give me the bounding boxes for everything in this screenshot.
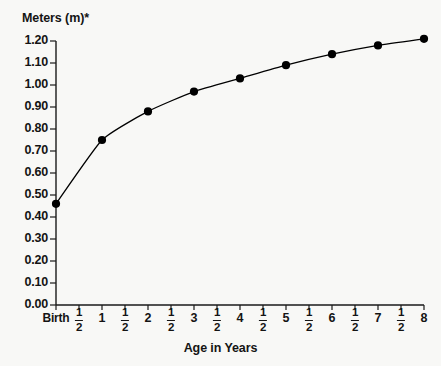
- fraction-numerator: 1: [305, 307, 313, 319]
- fraction-numerator: 1: [121, 307, 129, 319]
- fraction-numerator: 1: [75, 307, 83, 319]
- fraction-one-half: 12: [121, 307, 129, 333]
- fraction-denominator: 2: [75, 322, 83, 334]
- fraction-numerator: 1: [213, 307, 221, 319]
- x-axis-tick-label: 3: [191, 311, 198, 325]
- y-axis-tick-label: 1.10: [2, 55, 48, 69]
- y-axis-tick-label: 1.20: [2, 33, 48, 47]
- x-axis-tick-label: 12: [259, 308, 267, 335]
- fraction-numerator: 1: [167, 307, 175, 319]
- data-point: [190, 88, 198, 96]
- data-point: [420, 35, 428, 43]
- y-axis-tick-label: 0.00: [2, 297, 48, 311]
- data-point: [144, 107, 152, 115]
- y-axis-tick-label: 0.60: [2, 165, 48, 179]
- fraction-one-half: 12: [397, 307, 405, 333]
- data-point: [236, 74, 244, 82]
- x-axis-tick-label: 12: [397, 308, 405, 335]
- fraction-numerator: 1: [397, 307, 405, 319]
- y-axis-tick-label: 0.50: [2, 187, 48, 201]
- fraction-denominator: 2: [167, 322, 175, 334]
- fraction-one-half: 12: [167, 307, 175, 333]
- fraction-one-half: 12: [213, 307, 221, 333]
- x-axis-tick-label: 8: [421, 311, 428, 325]
- y-axis-tick-label: 0.20: [2, 253, 48, 267]
- data-point: [328, 50, 336, 58]
- x-axis-title: Age in Years: [0, 341, 441, 355]
- fraction-one-half: 12: [259, 307, 267, 333]
- x-axis-tick-label: 7: [375, 311, 382, 325]
- fraction-one-half: 12: [305, 307, 313, 333]
- x-axis-tick-label: 12: [121, 308, 129, 335]
- data-point: [374, 41, 382, 49]
- axes-group: [50, 41, 424, 310]
- data-point: [282, 61, 290, 69]
- x-axis-tick-label: 6: [329, 311, 336, 325]
- data-series-line: [52, 35, 428, 208]
- fraction-one-half: 12: [351, 307, 359, 333]
- fraction-denominator: 2: [351, 322, 359, 334]
- y-axis-tick-label: 0.90: [2, 99, 48, 113]
- fraction-denominator: 2: [305, 322, 313, 334]
- x-axis-tick-label: 12: [167, 308, 175, 335]
- x-axis-tick-label: 12: [351, 308, 359, 335]
- data-point: [98, 136, 106, 144]
- fraction-numerator: 1: [259, 307, 267, 319]
- fraction-denominator: 2: [121, 322, 129, 334]
- fraction-denominator: 2: [213, 322, 221, 334]
- y-axis-tick-label: 0.40: [2, 209, 48, 223]
- growth-chart: Meters (m)* 1.201.101.000.900.800.700.60…: [0, 0, 441, 366]
- y-axis-tick-label: 0.70: [2, 143, 48, 157]
- fraction-one-half: 12: [75, 307, 83, 333]
- data-point: [52, 200, 60, 208]
- x-axis-tick-label: 5: [283, 311, 290, 325]
- x-axis-tick-label: 2: [145, 311, 152, 325]
- x-axis-tick-label: 1: [99, 311, 106, 325]
- fraction-numerator: 1: [351, 307, 359, 319]
- y-axis-tick-label: 0.30: [2, 231, 48, 245]
- x-axis-tick-label: 12: [213, 308, 221, 335]
- y-axis-tick-label: 1.00: [2, 77, 48, 91]
- x-axis-tick-label: 12: [305, 308, 313, 335]
- fraction-denominator: 2: [259, 322, 267, 334]
- x-axis-tick-label: 12: [75, 308, 83, 335]
- x-axis-tick-label: 4: [237, 311, 244, 325]
- x-axis-tick-label: Birth: [43, 311, 70, 325]
- y-axis-tick-label: 0.10: [2, 275, 48, 289]
- y-axis-tick-label: 0.80: [2, 121, 48, 135]
- fraction-denominator: 2: [397, 322, 405, 334]
